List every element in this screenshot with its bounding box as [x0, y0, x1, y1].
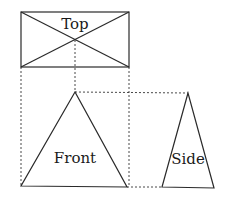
- side-view-label: Side: [171, 150, 205, 168]
- front-view-label: Front: [54, 149, 96, 167]
- side-view: Side: [162, 93, 214, 188]
- projection-line-apex: [75, 92, 188, 93]
- projection-lines: [21, 40, 188, 187]
- front-view-triangle: [21, 92, 127, 187]
- front-view: Front: [21, 92, 127, 187]
- top-view-label: Top: [61, 15, 88, 33]
- orthographic-diagram: Top Front Side: [0, 0, 228, 197]
- top-view: Top: [21, 12, 129, 67]
- side-view-triangle: [162, 93, 214, 188]
